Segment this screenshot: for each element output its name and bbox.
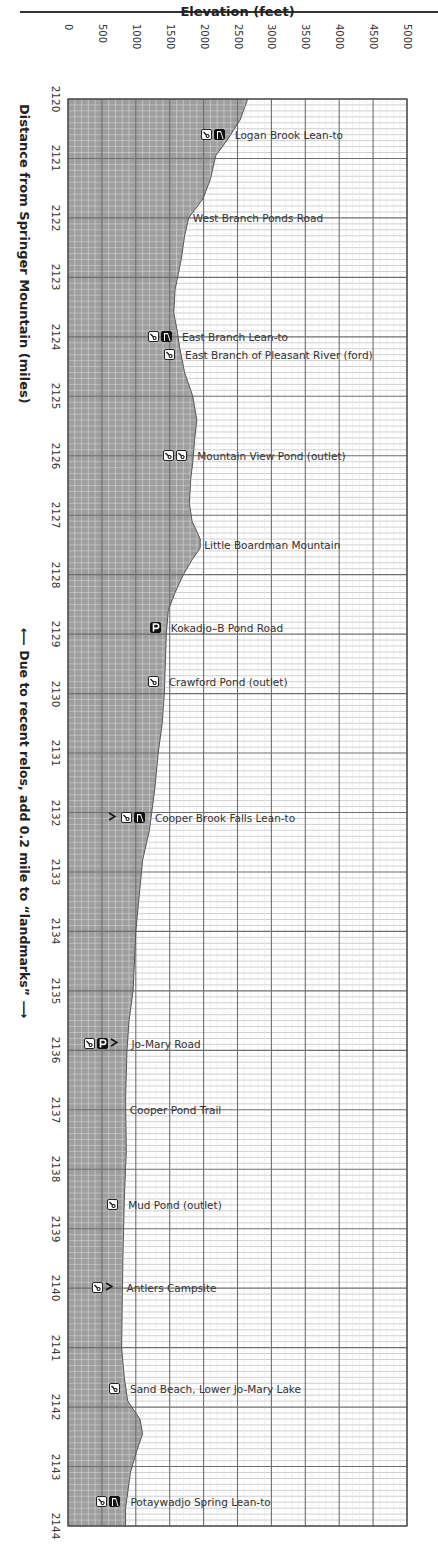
landmark-label: Mud Pond (outlet) — [128, 1199, 222, 1211]
landmark-label: Mountain View Pond (outlet) — [197, 450, 345, 462]
campsite-icon — [110, 1038, 118, 1047]
water-source-icon — [84, 1038, 95, 1049]
water-source-icon — [148, 331, 159, 342]
landmark-label: West Branch Ponds Road — [193, 212, 323, 224]
water-source-icon — [121, 812, 132, 823]
water-source-icon — [107, 1199, 118, 1210]
landmark-label: Jo-Mary Road — [131, 1038, 200, 1050]
landmark-label: Antlers Campsite — [126, 1282, 216, 1294]
water-source-icon — [201, 129, 212, 140]
landmark-label: Crawford Pond (outlet) — [169, 676, 288, 688]
shelter-icon — [161, 331, 172, 342]
water-source-icon — [96, 1496, 107, 1507]
landmark-label: Kokadjo–B Pond Road — [171, 622, 283, 634]
landmark-label: Potaywadjo Spring Lean-to — [130, 1496, 270, 1508]
water-source-icon — [176, 450, 187, 461]
landmark-label: Sand Beach, Lower Jo-Mary Lake — [130, 1383, 301, 1395]
landmark-label: Logan Brook Lean-to — [235, 129, 343, 141]
water-source-icon — [109, 1383, 120, 1394]
parking-icon — [150, 622, 161, 633]
parking-icon — [97, 1038, 108, 1049]
landmark-label: Cooper Brook Falls Lean-to — [155, 812, 295, 824]
landmark-label: Cooper Pond Trail — [130, 1104, 221, 1116]
shelter-icon — [109, 1496, 120, 1507]
campsite-icon — [108, 812, 116, 821]
landmark-label: East Branch of Pleasant River (ford) — [185, 349, 373, 361]
water-source-icon — [148, 676, 159, 687]
elevation-profile-chart — [0, 0, 438, 1550]
campsite-icon — [105, 1282, 113, 1291]
water-source-icon — [164, 349, 175, 360]
shelter-icon — [214, 129, 225, 140]
landmark-label: East Branch Lean-to — [182, 331, 288, 343]
shelter-icon — [134, 812, 145, 823]
water-source-icon — [163, 450, 174, 461]
landmark-label: Little Boardman Mountain — [204, 539, 340, 551]
water-source-icon — [92, 1282, 103, 1293]
